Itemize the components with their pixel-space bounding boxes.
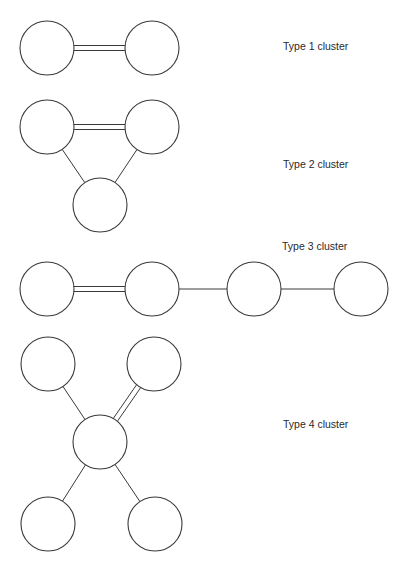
- type-1-cluster-label: Type 1 cluster: [283, 40, 348, 52]
- node-circle: [20, 262, 74, 316]
- node-circle: [20, 21, 74, 75]
- node-circle: [227, 262, 281, 316]
- single-bond-line: [115, 149, 137, 182]
- node-circle: [21, 337, 75, 391]
- node-circle: [334, 262, 388, 316]
- node-circle: [21, 497, 75, 551]
- type-3-cluster-label: Type 3 cluster: [282, 240, 347, 252]
- node-circle: [73, 415, 127, 469]
- node-circle: [127, 337, 181, 391]
- single-bond-line: [62, 149, 85, 182]
- cluster-type-2: [20, 100, 179, 232]
- node-circle: [125, 100, 179, 154]
- double-bond-line: [113, 385, 136, 419]
- node-circle: [20, 100, 74, 154]
- type-4-cluster-label: Type 4 cluster: [283, 418, 348, 430]
- single-bond-line: [63, 386, 85, 419]
- node-circle: [73, 178, 127, 232]
- single-bond-line: [62, 465, 85, 501]
- type-2-cluster-label: Type 2 cluster: [283, 158, 348, 170]
- cluster-type-3: [20, 262, 388, 316]
- cluster-type-4: [21, 337, 182, 551]
- single-bond-line: [115, 464, 140, 501]
- cluster-type-1: [20, 21, 179, 75]
- double-bond-line: [117, 388, 140, 422]
- cluster-diagram: [0, 0, 408, 571]
- node-circle: [128, 497, 182, 551]
- node-circle: [125, 262, 179, 316]
- node-circle: [125, 21, 179, 75]
